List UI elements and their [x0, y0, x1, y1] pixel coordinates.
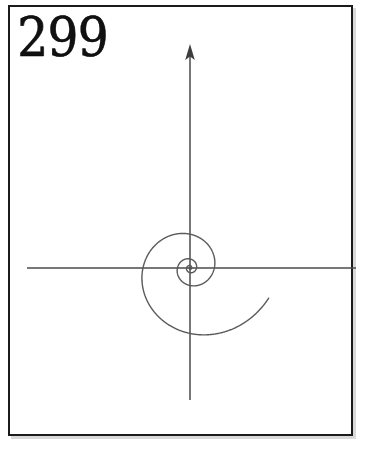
figure-page: 299: [0, 0, 369, 453]
spiral-diagram-canvas: [0, 0, 369, 453]
logarithmic-spiral-curve: [142, 233, 269, 334]
